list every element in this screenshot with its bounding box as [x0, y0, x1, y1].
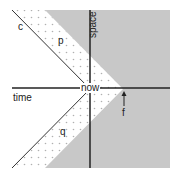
label-q: q	[60, 127, 66, 137]
label-p: p	[58, 36, 64, 46]
label-time: time	[13, 93, 32, 103]
label-c: c	[18, 22, 23, 32]
label-space: space	[88, 11, 98, 38]
label-f: f	[122, 108, 125, 118]
label-now: now	[80, 83, 100, 93]
